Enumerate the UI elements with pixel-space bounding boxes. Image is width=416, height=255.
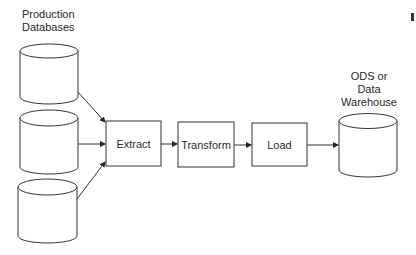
warehouse-label-line-3: Warehouse [330, 96, 408, 109]
production-databases-label: Production Databases [22, 8, 75, 34]
warehouse-label: ODS or Data Warehouse [330, 70, 408, 109]
warehouse-label-line-2: Data [330, 83, 408, 96]
extract-label: Extract [106, 121, 161, 166]
page-edge-mark [411, 13, 414, 21]
production-databases-label-line-1: Production [22, 8, 75, 21]
load-label: Load [252, 123, 307, 166]
warehouse-label-line-1: ODS or [330, 70, 408, 83]
edge-db3-extract [77, 162, 105, 199]
edge-db1-extract [78, 92, 105, 122]
database-cylinder-icon-3 [18, 179, 77, 243]
transform-label: Transform [178, 122, 234, 167]
production-databases-label-line-2: Databases [22, 21, 75, 34]
database-cylinder-icon-2 [20, 110, 78, 174]
database-cylinder-icon-1 [20, 44, 78, 104]
warehouse-cylinder-icon [339, 114, 397, 178]
